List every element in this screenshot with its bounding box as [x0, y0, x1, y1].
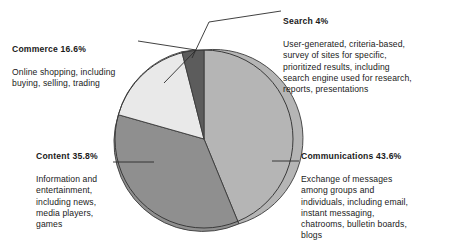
callout-commerce-description: Online shopping, including buying, selli… — [12, 67, 162, 89]
callout-commerce-title: Commerce 16.6% — [12, 44, 162, 55]
callout-commerce: Commerce 16.6% Online shopping, includin… — [12, 33, 162, 101]
callout-search-description: User-generated, criteria-based, survey o… — [283, 39, 449, 95]
callout-communications-title: Communications 43.6% — [301, 151, 449, 162]
callout-communications-description: Exchange of messages among groups and in… — [301, 174, 449, 241]
callout-search: Search 4% User-generated, criteria-based… — [283, 5, 449, 106]
callout-content-title: Content 35.8% — [36, 151, 146, 162]
callout-content-description: Information and entertainment, including… — [36, 174, 146, 230]
pie-chart-figure: Search 4% User-generated, criteria-based… — [0, 0, 449, 242]
callout-communications: Communications 43.6% Exchange of message… — [301, 140, 449, 242]
callout-content: Content 35.8% Information and entertainm… — [36, 140, 146, 241]
callout-search-title: Search 4% — [283, 16, 449, 27]
